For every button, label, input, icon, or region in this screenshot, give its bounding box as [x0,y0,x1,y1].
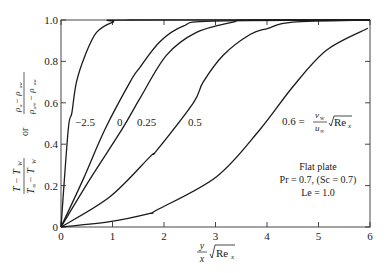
svg-text:∞: ∞ [320,128,324,134]
x-tick-label: 1 [110,230,116,242]
y-tick-label: 0.6 [44,97,58,109]
y-tick-label: 0.4 [44,138,58,150]
svg-text:− ρ: − ρ [12,91,22,104]
x-tick-label: 6 [367,230,373,242]
svg-text:v: v [315,110,319,120]
y-tick-label: 1.0 [44,14,58,26]
x-tick-label: 0 [58,230,64,242]
svg-text:∞: ∞ [31,184,37,188]
x-tick-label: 3 [213,230,219,242]
svg-text:0.6 =: 0.6 = [282,115,305,127]
y-tick-label: 0.2 [44,180,58,192]
x-tick-label: 2 [161,230,167,242]
annotation-le: Le = 1.0 [301,187,335,198]
y-tick-label: 0 [53,221,59,233]
svg-text:W: W [31,158,37,164]
svg-text:w: w [320,115,325,121]
svg-text:Re: Re [334,116,346,128]
svg-text:aw: aw [32,79,37,86]
svg-text:or: or [19,127,30,136]
svg-text:aw: aw [18,82,23,89]
svg-text:x: x [347,122,352,130]
x-tick-label: 5 [316,230,322,242]
boundary-layer-profile-chart: 012345600.20.40.60.81.0 −2.5 0 0.25 0.5 … [0,0,389,273]
svg-text:− ρ: − ρ [26,88,36,101]
curve-label-0-5: 0.5 [188,116,202,128]
svg-text:x: x [199,253,205,264]
curve-label-0: 0 [117,116,123,128]
curve-label-0-25: 0.25 [137,116,157,128]
svg-text:a∞: a∞ [32,103,37,110]
curve-label-0-6: 0.6 = v w u ∞ Re x [282,110,352,134]
x-axis-label: y x Re x [197,240,235,264]
annotation-pr-sc: Pr = 0.7, (Sc = 0.7) [280,174,357,186]
svg-text:Re: Re [216,247,228,259]
y-axis-label: T − T W T ∞ − T W or ρ a − ρ aw ρ a∞ − ρ… [11,72,37,194]
annotation-flat-plate: Flat plate [299,161,337,172]
svg-text:x: x [230,253,235,261]
svg-text:W: W [17,160,23,166]
svg-text:T − T: T − T [11,168,22,192]
svg-text:− T: − T [25,167,36,183]
svg-text:y: y [199,240,205,251]
x-tick-label: 4 [264,230,270,242]
curve-label-minus-2-5: −2.5 [75,116,95,128]
y-tick-label: 0.8 [44,55,58,67]
conditions-annotation: Flat plate Pr = 0.7, (Sc = 0.7) Le = 1.0 [280,161,357,198]
